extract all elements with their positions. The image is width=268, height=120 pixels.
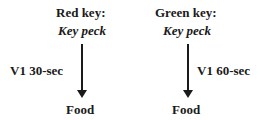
right-arrow-icon (187, 44, 189, 92)
red-key-label: Red key: (56, 6, 105, 20)
right-response-label: Key peck (163, 24, 211, 38)
left-schedule-label: V1 30-sec (10, 64, 63, 78)
left-outcome-label: Food (66, 103, 94, 117)
right-outcome-label: Food (172, 103, 200, 117)
left-response-label: Key peck (58, 24, 106, 38)
green-key-label: Green key: (155, 6, 217, 20)
left-arrow-icon (81, 44, 83, 92)
right-schedule-label: V1 60-sec (197, 64, 250, 78)
